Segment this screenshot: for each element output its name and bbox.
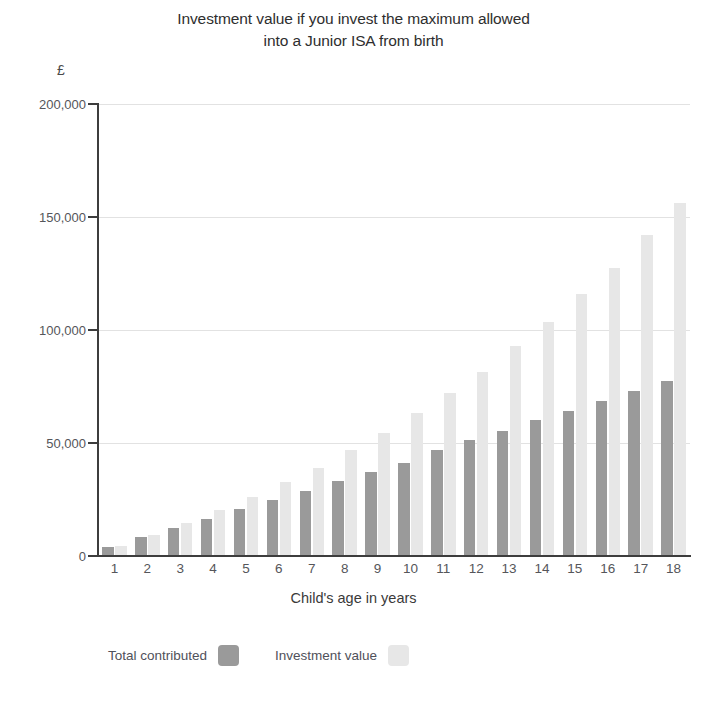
y-axis-tick-label: 200,000 — [2, 97, 86, 112]
bar-group — [332, 104, 357, 556]
y-axis-tick-label: 100,000 — [2, 323, 86, 338]
y-axis-tick-label: 50,000 — [2, 436, 86, 451]
legend-item: Investment value — [275, 645, 409, 666]
bar-investment-value — [148, 535, 160, 556]
y-axis-tick-mark — [88, 442, 99, 444]
bar-total-contributed — [168, 528, 180, 556]
bar-group — [431, 104, 456, 556]
chart-title-line-1: Investment value if you invest the maxim… — [0, 8, 707, 30]
legend-swatch-contributed — [218, 645, 239, 666]
x-axis-tick-label: 15 — [567, 561, 582, 576]
bar-group — [267, 104, 292, 556]
x-axis-tick-label: 11 — [436, 561, 450, 576]
y-axis-tick-mark — [88, 103, 99, 105]
bar-total-contributed — [135, 537, 147, 556]
bar-investment-value — [313, 468, 325, 556]
bar-total-contributed — [332, 481, 344, 556]
bar-group — [365, 104, 390, 556]
bar-investment-value — [674, 203, 686, 556]
bar-total-contributed — [201, 519, 213, 556]
chart-title-line-2: into a Junior ISA from birth — [0, 30, 707, 52]
y-axis-tick-label: 0 — [2, 549, 86, 564]
bar-total-contributed — [497, 431, 509, 556]
y-axis-tick-mark — [88, 555, 99, 557]
x-axis-title: Child's age in years — [0, 590, 707, 606]
bar-group — [135, 104, 160, 556]
bar-total-contributed — [661, 381, 673, 556]
x-axis-tick-label: 13 — [502, 561, 517, 576]
bar-total-contributed — [628, 391, 640, 556]
plot-area — [98, 104, 690, 556]
x-axis-tick-label: 9 — [374, 561, 382, 576]
legend-item-label: Total contributed — [108, 648, 207, 663]
bar-total-contributed — [464, 440, 476, 556]
x-axis-tick-label: 10 — [403, 561, 418, 576]
bar-investment-value — [477, 372, 489, 556]
x-axis-tick-label: 2 — [144, 561, 152, 576]
bar-investment-value — [510, 346, 522, 556]
bar-group — [398, 104, 423, 556]
bar-investment-value — [378, 433, 390, 556]
y-axis-tick-label: 150,000 — [2, 210, 86, 225]
bar-total-contributed — [365, 472, 377, 556]
bar-investment-value — [576, 294, 588, 556]
bar-group — [628, 104, 653, 556]
bar-group — [530, 104, 555, 556]
bar-investment-value — [641, 235, 653, 556]
x-axis-tick-label: 7 — [308, 561, 316, 576]
bar-group — [300, 104, 325, 556]
x-axis-tick-label: 4 — [209, 561, 217, 576]
chart-title: Investment value if you invest the maxim… — [0, 8, 707, 52]
bar-investment-value — [280, 482, 292, 556]
bar-total-contributed — [267, 500, 279, 556]
x-axis-tick-label: 5 — [242, 561, 250, 576]
bar-group — [102, 104, 127, 556]
bar-investment-value — [444, 393, 456, 556]
bar-total-contributed — [563, 411, 575, 556]
bar-investment-value — [214, 510, 226, 556]
x-axis-line — [97, 555, 691, 557]
bar-total-contributed — [398, 463, 410, 556]
x-axis-tick-labels: 123456789101112131415161718 — [98, 561, 690, 583]
bar-group — [201, 104, 226, 556]
bar-total-contributed — [234, 509, 246, 556]
bar-total-contributed — [431, 450, 443, 556]
bar-investment-value — [609, 268, 621, 556]
bar-investment-value — [181, 523, 193, 556]
bar-total-contributed — [300, 491, 312, 556]
bar-group — [661, 104, 686, 556]
bar-total-contributed — [530, 420, 542, 556]
x-axis-tick-label: 8 — [341, 561, 349, 576]
bar-investment-value — [543, 322, 555, 556]
legend-item: Total contributed — [108, 645, 239, 666]
x-axis-tick-label: 14 — [534, 561, 549, 576]
bar-group — [464, 104, 489, 556]
bar-total-contributed — [596, 401, 608, 556]
x-axis-tick-label: 3 — [176, 561, 184, 576]
y-axis-tick-mark — [88, 329, 99, 331]
legend-swatch-value — [388, 645, 409, 666]
bar-investment-value — [345, 450, 357, 556]
investment-value-bar-chart: Investment value if you invest the maxim… — [0, 0, 707, 703]
x-axis-tick-label: 17 — [633, 561, 648, 576]
y-axis-tick-mark — [88, 216, 99, 218]
x-axis-tick-label: 12 — [469, 561, 484, 576]
bar-investment-value — [411, 413, 423, 557]
bar-group — [168, 104, 193, 556]
x-axis-tick-label: 16 — [600, 561, 615, 576]
x-axis-tick-label: 6 — [275, 561, 283, 576]
bar-group — [234, 104, 259, 556]
x-axis-tick-label: 1 — [111, 561, 119, 576]
bar-group — [497, 104, 522, 556]
bar-investment-value — [247, 497, 259, 556]
bar-group — [563, 104, 588, 556]
legend-item-label: Investment value — [275, 648, 377, 663]
x-axis-tick-label: 18 — [666, 561, 681, 576]
bar-group — [596, 104, 621, 556]
chart-legend: Total contributedInvestment value — [108, 645, 409, 666]
